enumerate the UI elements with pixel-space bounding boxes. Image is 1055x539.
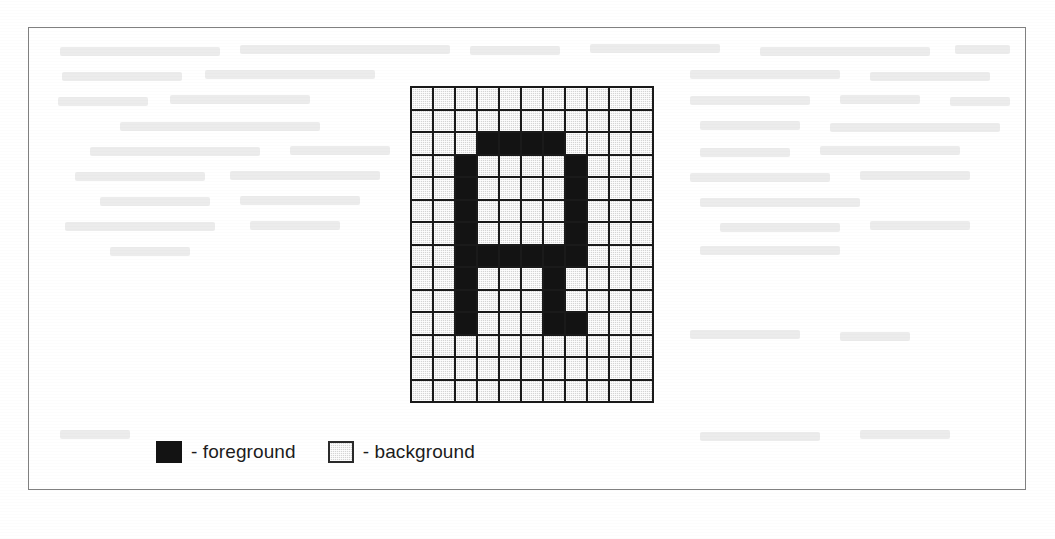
pixel-cell-foreground: [522, 246, 544, 269]
pixel-cell-background: [522, 111, 544, 134]
pixel-cell-foreground: [456, 246, 478, 269]
pixel-grid-row: [412, 358, 654, 381]
pixel-cell-background: [478, 88, 500, 111]
pixel-grid-row: [412, 381, 654, 404]
pixel-cell-background: [610, 381, 632, 404]
pixel-cell-background: [478, 223, 500, 246]
pixel-cell-background: [632, 268, 654, 291]
legend-entry-foreground: - foreground: [156, 441, 296, 463]
pixel-cell-background: [610, 246, 632, 269]
pixel-cell-foreground: [522, 133, 544, 156]
pixel-cell-background: [434, 358, 456, 381]
pixel-cell-foreground: [544, 291, 566, 314]
pixel-cell-foreground: [566, 156, 588, 179]
pixel-cell-background: [632, 358, 654, 381]
pixel-cell-background: [434, 178, 456, 201]
pixel-cell-background: [522, 358, 544, 381]
pixel-cell-background: [478, 336, 500, 359]
pixel-cell-background: [412, 178, 434, 201]
pixel-cell-foreground: [566, 223, 588, 246]
pixel-cell-background: [478, 313, 500, 336]
pixel-cell-background: [456, 111, 478, 134]
pixel-cell-background: [500, 381, 522, 404]
pixel-cell-background: [434, 381, 456, 404]
pixel-cell-background: [588, 201, 610, 224]
foreground-swatch-icon: [156, 441, 182, 463]
pixel-cell-background: [566, 133, 588, 156]
pixel-cell-background: [632, 246, 654, 269]
pixel-cell-foreground: [566, 178, 588, 201]
pixel-cell-background: [610, 223, 632, 246]
pixel-cell-background: [500, 291, 522, 314]
pixel-cell-background: [566, 268, 588, 291]
pixel-cell-background: [566, 291, 588, 314]
pixel-cell-background: [500, 88, 522, 111]
pixel-cell-foreground: [544, 133, 566, 156]
pixel-grid-row: [412, 178, 654, 201]
pixel-cell-background: [632, 313, 654, 336]
legend: - foreground - background: [156, 441, 475, 463]
pixel-grid-row: [412, 291, 654, 314]
pixel-cell-background: [588, 313, 610, 336]
pixel-cell-background: [412, 268, 434, 291]
pixel-cell-background: [500, 178, 522, 201]
pixel-cell-background: [588, 178, 610, 201]
pixel-cell-foreground: [566, 246, 588, 269]
pixel-cell-foreground: [456, 201, 478, 224]
pixel-cell-background: [566, 358, 588, 381]
pixel-cell-background: [500, 156, 522, 179]
pixel-cell-foreground: [478, 133, 500, 156]
pixel-cell-background: [434, 133, 456, 156]
pixel-cell-foreground: [544, 268, 566, 291]
pixel-cell-background: [434, 156, 456, 179]
pixel-cell-background: [588, 156, 610, 179]
pixel-cell-background: [500, 336, 522, 359]
pixel-grid-row: [412, 111, 654, 134]
pixel-cell-background: [522, 381, 544, 404]
pixel-cell-foreground: [456, 268, 478, 291]
pixel-cell-background: [610, 156, 632, 179]
pixel-cell-background: [632, 178, 654, 201]
pixel-grid-row: [412, 336, 654, 359]
pixel-cell-background: [544, 156, 566, 179]
pixel-grid: [410, 86, 654, 403]
pixel-cell-background: [588, 336, 610, 359]
pixel-cell-background: [632, 223, 654, 246]
pixel-cell-background: [588, 223, 610, 246]
pixel-cell-background: [544, 336, 566, 359]
pixel-cell-background: [632, 381, 654, 404]
pixel-cell-background: [456, 133, 478, 156]
pixel-cell-background: [456, 88, 478, 111]
pixel-cell-foreground: [566, 201, 588, 224]
pixel-cell-foreground: [566, 313, 588, 336]
pixel-cell-foreground: [478, 246, 500, 269]
pixel-cell-background: [566, 381, 588, 404]
pixel-cell-background: [588, 111, 610, 134]
background-swatch-icon: [328, 441, 354, 463]
pixel-cell-background: [632, 111, 654, 134]
pixel-cell-background: [412, 381, 434, 404]
pixel-cell-background: [610, 111, 632, 134]
pixel-cell-background: [566, 336, 588, 359]
pixel-cell-background: [434, 223, 456, 246]
pixel-cell-background: [544, 223, 566, 246]
pixel-cell-background: [478, 381, 500, 404]
pixel-cell-background: [412, 133, 434, 156]
pixel-cell-background: [434, 336, 456, 359]
pixel-cell-background: [632, 291, 654, 314]
pixel-cell-foreground: [500, 133, 522, 156]
pixel-cell-background: [434, 201, 456, 224]
pixel-cell-background: [478, 291, 500, 314]
pixel-cell-background: [434, 291, 456, 314]
pixel-cell-background: [412, 111, 434, 134]
pixel-cell-background: [610, 358, 632, 381]
pixel-grid-row: [412, 246, 654, 269]
pixel-cell-background: [522, 223, 544, 246]
pixel-grid-row: [412, 88, 654, 111]
pixel-cell-background: [588, 358, 610, 381]
pixel-cell-background: [478, 268, 500, 291]
pixel-cell-background: [610, 313, 632, 336]
pixel-cell-background: [434, 88, 456, 111]
pixel-cell-background: [412, 201, 434, 224]
pixel-grid-row: [412, 268, 654, 291]
